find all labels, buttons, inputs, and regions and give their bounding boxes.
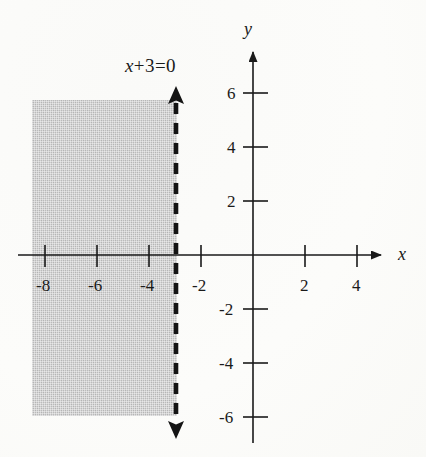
y-tick-label-2: 2 bbox=[227, 193, 236, 210]
x-tick-label--8: -8 bbox=[36, 277, 50, 294]
boundary-line-group bbox=[168, 86, 184, 439]
equation-variable: x bbox=[125, 55, 134, 76]
x-tick-label--6: -6 bbox=[88, 277, 102, 294]
equation-right-side: 0 bbox=[166, 55, 176, 76]
math-figure: x+3=0 y x -8 -6 -4 -2 2 4 6 4 2 -2 -4 -6 bbox=[0, 0, 426, 457]
x-tick-label--2: -2 bbox=[192, 277, 206, 294]
y-tick-label-6: 6 bbox=[227, 85, 236, 102]
x-axis bbox=[18, 245, 381, 267]
plot-canvas bbox=[0, 0, 426, 457]
y-tick-label-4: 4 bbox=[227, 139, 236, 156]
equation-equals: = bbox=[155, 55, 166, 76]
y-tick-label--2: -2 bbox=[219, 301, 233, 318]
x-axis-label: x bbox=[398, 245, 406, 263]
x-tick-label-2: 2 bbox=[300, 277, 309, 294]
y-axis-label: y bbox=[244, 20, 252, 38]
equation-label: x+3=0 bbox=[125, 56, 176, 75]
x-tick-label--4: -4 bbox=[140, 277, 154, 294]
y-axis bbox=[243, 52, 268, 443]
y-tick-label--4: -4 bbox=[219, 355, 233, 372]
boundary-arrow-up-icon bbox=[168, 86, 184, 104]
equation-operator-plus: + bbox=[134, 55, 145, 76]
y-tick-label--6: -6 bbox=[219, 409, 233, 426]
x-tick-label-4: 4 bbox=[352, 277, 361, 294]
boundary-arrow-down-icon bbox=[168, 421, 184, 439]
equation-constant: 3 bbox=[145, 55, 155, 76]
